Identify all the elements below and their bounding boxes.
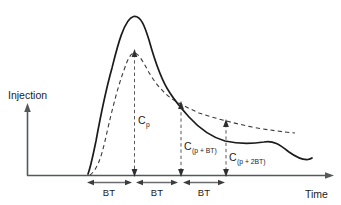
x-axis-label: Time xyxy=(305,188,328,200)
bt-span-3-arrow-right-icon xyxy=(218,180,225,185)
y-axis-label: Injection xyxy=(8,89,47,101)
y-axis-arrow-icon xyxy=(24,103,31,112)
bt-span-1 xyxy=(87,180,132,185)
bt-span-2 xyxy=(136,180,178,185)
bt-span-2-arrow-left-icon xyxy=(136,180,143,185)
bt-spans-group xyxy=(87,180,225,185)
cp-bt-label-subscript: (p + BT) xyxy=(192,147,217,155)
bt-span-3-arrow-left-icon xyxy=(183,180,190,185)
bt-span-2-label: BT xyxy=(151,187,164,198)
bt-span-1-arrow-right-icon xyxy=(125,180,132,185)
cp-label-main: C xyxy=(138,114,146,126)
labels-group: Injection Time C p C (p + BT) C (p + 2BT… xyxy=(8,89,328,200)
cp-2bt-measure-arrow-up-icon xyxy=(223,119,229,127)
bt-span-1-arrow-left-icon xyxy=(87,180,94,185)
cp-label: C p xyxy=(138,114,150,129)
cp-bt-measure xyxy=(178,101,184,177)
axes-group xyxy=(24,103,334,179)
bt-span-3 xyxy=(183,180,225,185)
cp-measure-arrow-up-icon xyxy=(132,49,138,57)
cp-2bt-label-main: C xyxy=(229,151,237,163)
bt-span-1-label: BT xyxy=(103,187,116,198)
cp-2bt-measure xyxy=(223,119,229,177)
bt-span-3-label: BT xyxy=(198,187,211,198)
injection-time-diagram: Injection Time C p C (p + BT) C (p + 2BT… xyxy=(0,0,341,205)
cp-2bt-label: C (p + 2BT) xyxy=(229,151,266,166)
cp-bt-label: C (p + BT) xyxy=(184,140,217,155)
x-axis-arrow-icon xyxy=(325,172,334,179)
cp-label-subscript: p xyxy=(146,121,150,129)
cp-2bt-label-subscript: (p + 2BT) xyxy=(237,158,266,166)
bt-span-2-arrow-right-icon xyxy=(171,180,178,185)
figure-root: Injection Time C p C (p + BT) C (p + 2BT… xyxy=(0,0,341,205)
cp-measure xyxy=(132,49,138,177)
cp-bt-label-main: C xyxy=(184,140,192,152)
dashed-injection-curve xyxy=(90,53,295,175)
